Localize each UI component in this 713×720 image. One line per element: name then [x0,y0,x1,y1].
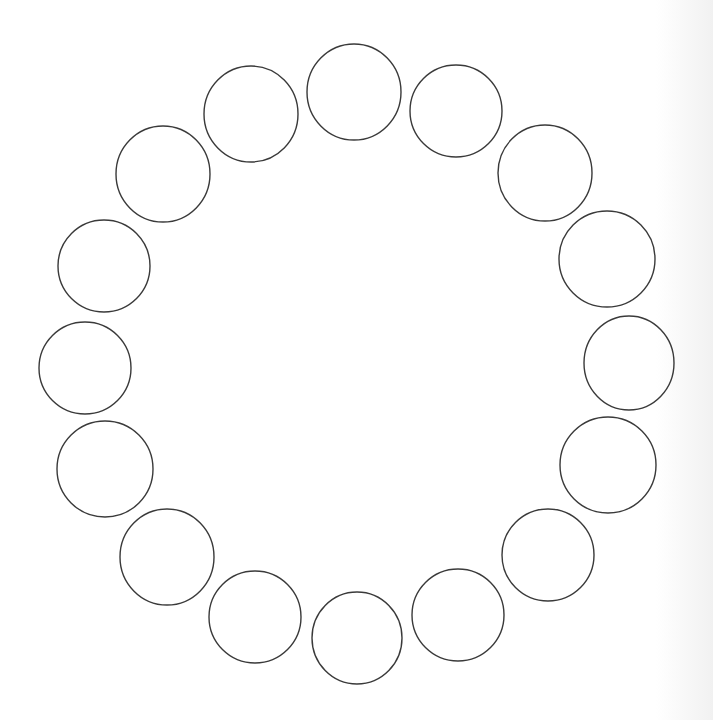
diagram-canvas [0,0,713,720]
ring-circle-16 [204,66,298,162]
ring-circle-3 [498,125,592,221]
ring-circle-13 [39,322,131,414]
ring-circle-11 [120,509,214,605]
ring-circle-14 [58,220,150,312]
ring-circle-2 [410,65,502,157]
ring-circle-4 [559,211,655,307]
circle-ring-diagram [0,0,713,720]
ring-circle-8 [412,569,504,661]
ring-circle-10 [209,571,301,663]
ring-circle-6 [560,417,656,513]
ring-circle-7 [502,509,594,601]
ring-circle-9 [312,592,402,684]
ring-circle-12 [57,421,153,517]
ring-circle-15 [116,126,210,222]
ring-circle-5 [584,316,674,410]
ring-circle-1 [307,44,401,140]
